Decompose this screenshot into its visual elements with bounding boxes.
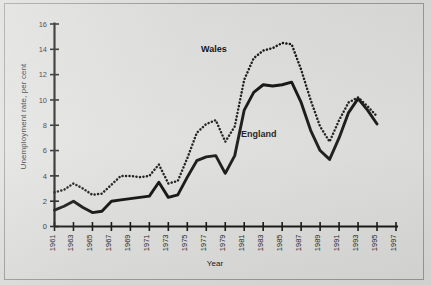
svg-text:1991: 1991: [332, 235, 341, 252]
chart-page: Unemployment rate, per cent Year Wales E…: [0, 0, 431, 285]
svg-text:16: 16: [39, 20, 47, 29]
svg-text:1965: 1965: [85, 235, 94, 252]
svg-text:2: 2: [43, 197, 47, 206]
line-chart-plot: 0246810121416 19611963196519671969197119…: [0, 0, 431, 285]
y-axis: 0246810121416: [39, 20, 59, 232]
series-label-wales: Wales: [201, 44, 227, 54]
svg-text:1979: 1979: [218, 235, 227, 252]
series-line-england: [55, 82, 378, 212]
svg-text:1963: 1963: [66, 235, 75, 252]
x-axis-title: Year: [165, 259, 265, 268]
svg-text:1987: 1987: [294, 235, 303, 252]
svg-text:14: 14: [39, 45, 47, 54]
y-axis-title: Unemployment rate, per cent: [19, 42, 28, 192]
svg-text:1997: 1997: [389, 235, 398, 252]
x-axis: 1961196319651967196919711973197519771979…: [48, 222, 399, 251]
svg-text:1989: 1989: [313, 235, 322, 252]
svg-text:1985: 1985: [275, 235, 284, 252]
svg-text:8: 8: [43, 121, 47, 130]
svg-text:1969: 1969: [123, 235, 132, 252]
svg-text:1981: 1981: [237, 235, 246, 252]
series-line-wales: [55, 43, 378, 195]
data-series-group: [55, 43, 378, 213]
svg-text:1967: 1967: [104, 235, 113, 252]
svg-text:1983: 1983: [256, 235, 265, 252]
svg-text:1993: 1993: [351, 235, 360, 252]
svg-text:6: 6: [43, 146, 47, 155]
series-label-england: England: [241, 129, 277, 139]
svg-text:10: 10: [39, 96, 47, 105]
svg-text:12: 12: [39, 70, 47, 79]
svg-text:1995: 1995: [370, 235, 379, 252]
svg-text:4: 4: [43, 172, 47, 181]
svg-text:1971: 1971: [142, 235, 151, 252]
svg-text:1977: 1977: [199, 235, 208, 252]
svg-text:1961: 1961: [48, 235, 57, 252]
svg-text:1975: 1975: [180, 235, 189, 252]
svg-text:0: 0: [43, 222, 47, 231]
svg-text:1973: 1973: [161, 235, 170, 252]
